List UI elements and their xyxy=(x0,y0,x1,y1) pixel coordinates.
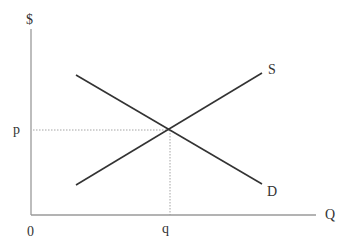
quantity-label: q xyxy=(162,221,169,236)
supply-demand-diagram: $ Q 0 p q S D xyxy=(0,0,351,243)
y-axis-label: $ xyxy=(26,12,33,27)
demand-label: D xyxy=(267,184,277,199)
x-axis-label: Q xyxy=(325,207,335,222)
supply-label: S xyxy=(268,62,276,77)
origin-label: 0 xyxy=(27,224,34,239)
price-label: p xyxy=(13,122,20,137)
